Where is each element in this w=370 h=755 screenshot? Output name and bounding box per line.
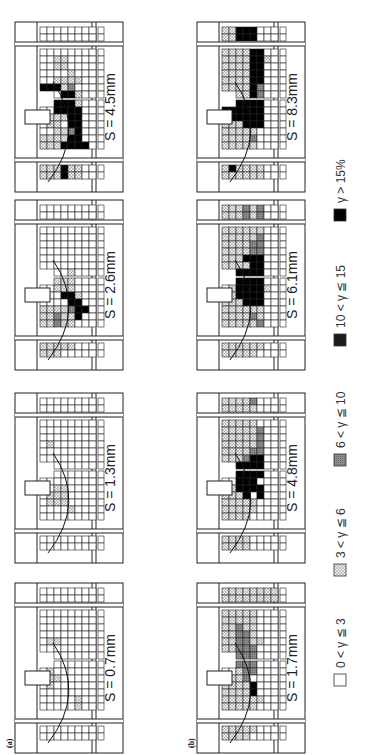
s-value-label: S = 4.8mm <box>284 444 300 512</box>
s-value-label: S = 2.6mm <box>102 251 118 319</box>
s-value-label: S = 1.3mm <box>102 444 118 512</box>
legend-swatch <box>334 674 346 686</box>
map-panel: S = 6.1mm <box>197 200 305 370</box>
map-panel: S = 1.3mm <box>15 393 123 563</box>
legend-label: 3 < γ ≦ 6 <box>334 508 348 558</box>
legend-label: γ > 15% <box>334 159 348 203</box>
s-value-label: S = 8.3mm <box>284 73 300 141</box>
legend-label: 10 < γ ≦ 15 <box>334 265 348 328</box>
legend-label: 0 < γ ≦ 3 <box>334 618 348 668</box>
s-value-label: S = 6.1mm <box>284 251 300 319</box>
legend-swatch <box>334 564 346 576</box>
panel-label-b: (b) <box>187 738 196 748</box>
legend-swatch <box>334 209 346 221</box>
s-value-label: S = 0.7mm <box>102 634 118 702</box>
panels-group: S = 0.7mmS = 1.3mmS = 2.6mmS = 4.5mmS = … <box>15 22 305 753</box>
map-panel: S = 4.5mm <box>15 22 123 192</box>
s-value-label: S = 1.7mm <box>284 634 300 702</box>
map-panel: S = 8.3mm <box>197 22 305 192</box>
legend: 0 < γ ≦ 33 < γ ≦ 66 < γ ≦ 1010 < γ ≦ 15γ… <box>334 159 348 686</box>
s-value-label: S = 4.5mm <box>102 73 118 141</box>
legend-swatch <box>334 334 346 346</box>
map-panel: S = 4.8mm <box>197 393 305 563</box>
map-panel: S = 0.7mm <box>15 583 123 753</box>
figure-canvas: S = 0.7mmS = 1.3mmS = 2.6mmS = 4.5mmS = … <box>0 0 370 755</box>
map-panel: S = 1.7mm <box>197 583 305 753</box>
map-panel: S = 2.6mm <box>15 200 123 370</box>
panel-label-a: (a) <box>5 738 14 748</box>
legend-label: 6 < γ ≦ 10 <box>334 391 348 448</box>
legend-swatch <box>334 454 346 466</box>
